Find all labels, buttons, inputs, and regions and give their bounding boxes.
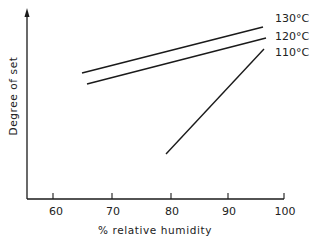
series-line-110c	[166, 49, 264, 154]
series-label-110c: 110°C	[275, 46, 309, 59]
series-line-120c	[87, 38, 266, 84]
x-tick-label-90: 90	[222, 205, 236, 218]
x-tick-label-70: 70	[106, 205, 120, 218]
x-axis-title: % relative humidity	[98, 224, 212, 236]
y-axis-title: Degree of set	[7, 57, 19, 136]
series-label-130c: 130°C	[275, 12, 309, 25]
x-tick-label-60: 60	[49, 205, 63, 218]
series-line-130c	[82, 27, 263, 73]
chart: 60 70 80 90 100 % relative humidity Degr…	[0, 0, 313, 242]
series-label-120c: 120°C	[275, 30, 309, 43]
x-tick-label-100: 100	[275, 205, 296, 218]
y-axis-arrow-icon	[25, 8, 30, 17]
x-tick-label-80: 80	[165, 205, 179, 218]
